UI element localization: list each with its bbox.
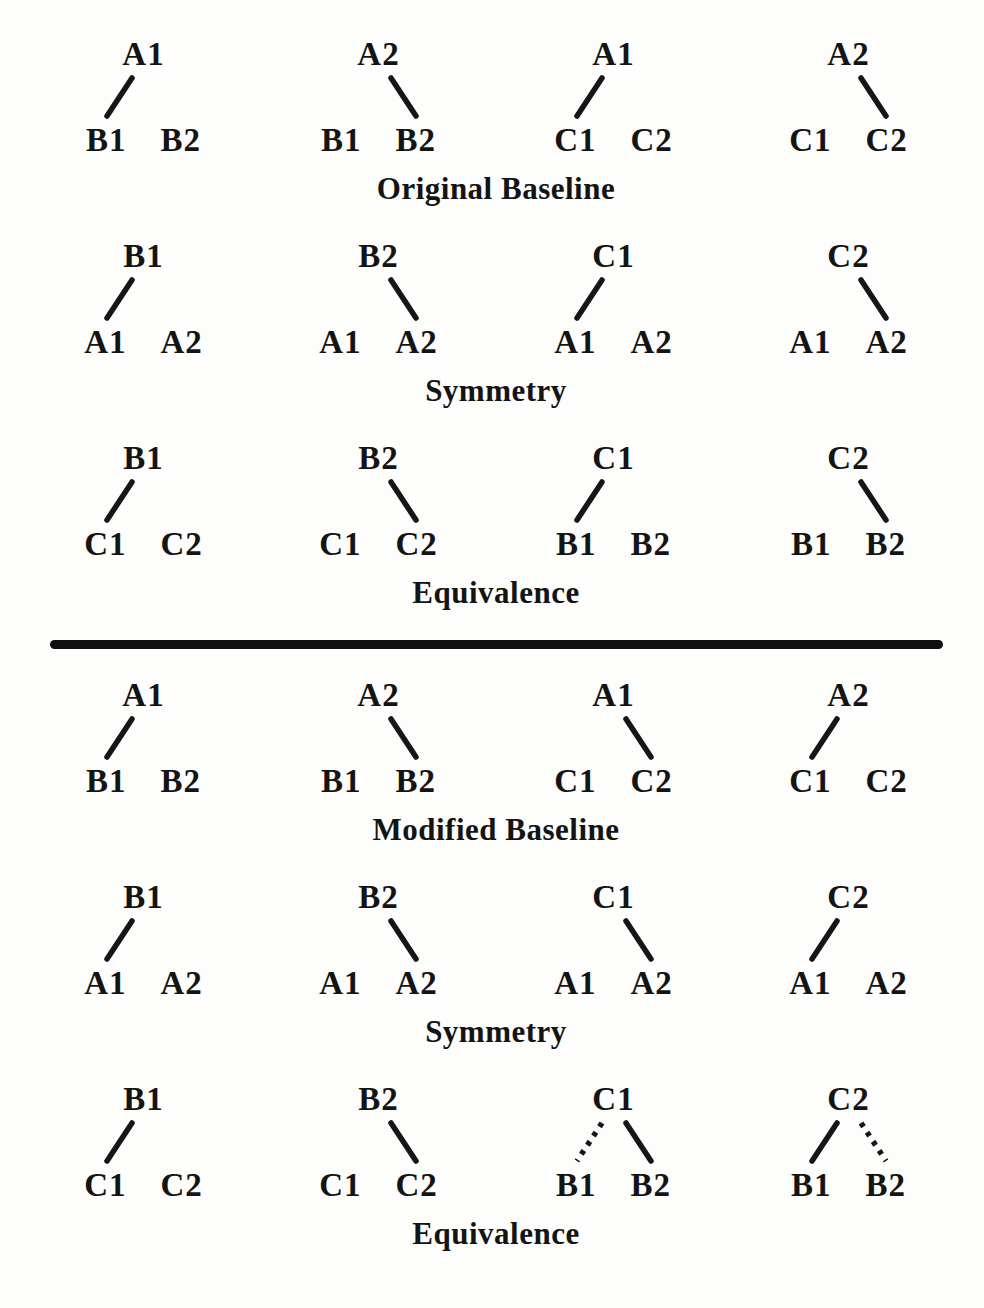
link-lines [69, 715, 219, 761]
comparison-label: B1 [791, 1165, 832, 1205]
tree-diagram: C1B1B2 [496, 438, 731, 564]
link-lines [304, 74, 454, 120]
comparison-label: C1 [319, 1165, 361, 1205]
tree-diagram: B1A1A2 [26, 236, 261, 362]
sample-label: B1 [123, 1079, 164, 1119]
trees-row: B1C1C2B2C1C2C1B1B2C2B1B2 [26, 1079, 966, 1205]
comparison-label: C2 [161, 1165, 203, 1205]
comparison-label: A2 [631, 963, 673, 1003]
link-lines [69, 74, 219, 120]
solid-link-left-line [107, 1123, 132, 1161]
comparison-label: A1 [554, 322, 596, 362]
comparison-label: B2 [161, 761, 202, 801]
link-lines [774, 917, 924, 963]
solid-link-left-line [577, 78, 602, 116]
sample-label: A2 [357, 675, 399, 715]
comparison-label: A1 [84, 322, 126, 362]
comparison-label: C1 [84, 1165, 126, 1205]
comparison-row: A1A2 [554, 322, 673, 362]
comparison-label: B2 [866, 524, 907, 564]
comparison-row: B1B2 [321, 761, 436, 801]
sample-label: C2 [827, 236, 869, 276]
sample-label: C2 [827, 1079, 869, 1119]
comparison-row: A1A2 [319, 322, 438, 362]
sample-label: A1 [592, 34, 634, 74]
tree-diagram: B2C1C2 [261, 438, 496, 564]
sample-label: C2 [827, 877, 869, 917]
trees-row: A1B1B2A2B1B2A1C1C2A2C1C2 [26, 675, 966, 801]
tree-diagram: A1B1B2 [26, 34, 261, 160]
solid-link-left-line [812, 719, 837, 757]
sample-label: A2 [357, 34, 399, 74]
solid-link-right-line [626, 921, 651, 959]
section-label: Symmetry [26, 1015, 966, 1049]
section-label: Equivalence [26, 1217, 966, 1251]
link-lines [304, 1119, 454, 1165]
comparison-label: B1 [86, 761, 127, 801]
sample-label: B1 [123, 877, 164, 917]
comparison-label: A2 [396, 322, 438, 362]
dotted-link-left-line [577, 1123, 602, 1161]
tree-diagram: B1C1C2 [26, 438, 261, 564]
tree-diagram: B1C1C2 [26, 1079, 261, 1205]
link-lines [69, 478, 219, 524]
solid-link-right-line [391, 482, 416, 520]
solid-link-right-line [861, 78, 886, 116]
solid-link-right-line [626, 719, 651, 757]
trees-row: B1A1A2B2A1A2C1A1A2C2A1A2 [26, 877, 966, 1003]
tree-diagram: B2A1A2 [261, 236, 496, 362]
link-lines [539, 917, 689, 963]
comparison-label: C2 [396, 524, 438, 564]
comparison-label: B1 [556, 1165, 597, 1205]
solid-link-left-line [577, 482, 602, 520]
comparison-row: C1C2 [84, 1165, 203, 1205]
sample-label: B2 [358, 438, 399, 478]
comparison-row: B1B2 [556, 524, 671, 564]
section-label: Equivalence [26, 576, 966, 610]
solid-link-left-line [107, 78, 132, 116]
comparison-label: A2 [866, 963, 908, 1003]
comparison-row: B1B2 [321, 120, 436, 160]
sample-label: C1 [592, 1079, 634, 1119]
comparison-label: C2 [866, 120, 908, 160]
comparison-label: B2 [631, 524, 672, 564]
trees-row: A1B1B2A2B1B2A1C1C2A2C1C2 [26, 34, 966, 160]
comparison-label: B1 [86, 120, 127, 160]
solid-link-right-line [391, 1123, 416, 1161]
tree-diagram: C1B1B2 [496, 1079, 731, 1205]
section-modified-baseline: A1B1B2A2B1B2A1C1C2A2C1C2Modified Baselin… [26, 675, 966, 847]
link-lines [774, 74, 924, 120]
link-lines [539, 74, 689, 120]
solid-link-right-line [391, 78, 416, 116]
section-label: Symmetry [26, 374, 966, 408]
comparison-row: A1A2 [84, 963, 203, 1003]
comparison-label: A2 [631, 322, 673, 362]
comparison-label: A1 [554, 963, 596, 1003]
sample-label: C1 [592, 236, 634, 276]
solid-link-left-line [577, 280, 602, 318]
link-lines [304, 276, 454, 322]
link-lines [774, 715, 924, 761]
comparison-label: C2 [866, 761, 908, 801]
link-lines [774, 276, 924, 322]
comparison-row: B1B2 [791, 1165, 906, 1205]
comparison-label: C1 [789, 761, 831, 801]
solid-link-right-line [861, 482, 886, 520]
comparison-label: A1 [84, 963, 126, 1003]
tree-diagram: A1C1C2 [496, 675, 731, 801]
section-original-baseline: A1B1B2A2B1B2A1C1C2A2C1C2Original Baselin… [26, 34, 966, 206]
comparison-row: A1A2 [84, 322, 203, 362]
sample-label: A1 [122, 675, 164, 715]
tree-diagram: C1A1A2 [496, 877, 731, 1003]
equivalence-figure: A1B1B2A2B1B2A1C1C2A2C1C2Original Baselin… [0, 0, 984, 1251]
comparison-row: C1C2 [554, 120, 673, 160]
dotted-link-right-line [861, 1123, 886, 1161]
link-lines [69, 917, 219, 963]
link-lines [539, 276, 689, 322]
tree-diagram: A1C1C2 [496, 34, 731, 160]
sample-label: A1 [592, 675, 634, 715]
link-lines [774, 1119, 924, 1165]
solid-link-left-line [107, 280, 132, 318]
comparison-label: A2 [161, 322, 203, 362]
comparison-row: C1C2 [789, 761, 908, 801]
